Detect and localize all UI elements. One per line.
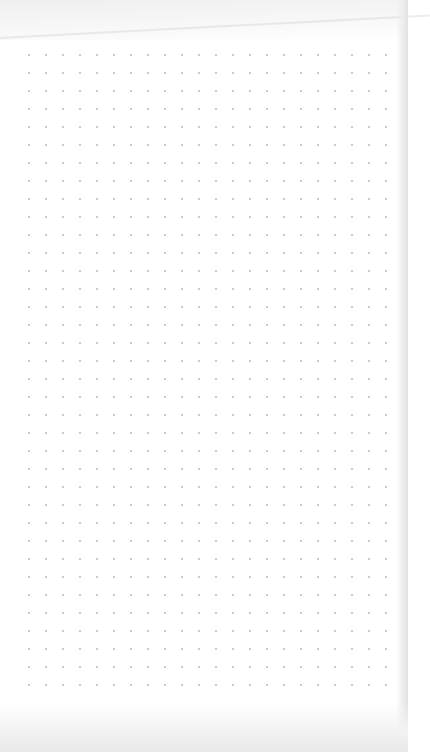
grid-dot [130,54,132,56]
grid-dot [385,216,387,218]
grid-dot [334,234,336,236]
grid-dot [215,216,217,218]
grid-dot [79,234,81,236]
grid-dot [147,90,149,92]
grid-dot [368,630,370,632]
grid-dot [283,306,285,308]
grid-dot [266,198,268,200]
grid-dot [368,54,370,56]
grid-dot [368,414,370,416]
grid-dot [28,72,30,74]
grid-dot [181,72,183,74]
grid-dot [96,486,98,488]
grid-dot [62,684,64,686]
grid-dot [232,108,234,110]
grid-dot [351,540,353,542]
grid-dot [130,558,132,560]
grid-dot [300,414,302,416]
grid-dot [317,126,319,128]
grid-dot [215,594,217,596]
grid-dot [232,162,234,164]
grid-dot [368,486,370,488]
grid-dot [113,594,115,596]
grid-dot [130,126,132,128]
grid-dot [334,126,336,128]
grid-dot [266,594,268,596]
grid-dot [385,54,387,56]
grid-dot [96,306,98,308]
grid-dot [45,432,47,434]
grid-dot [113,234,115,236]
grid-dot [283,630,285,632]
grid-dot [283,468,285,470]
grid-dot [147,198,149,200]
grid-dot [266,306,268,308]
grid-dot [181,198,183,200]
grid-dot [164,522,166,524]
grid-dot [130,306,132,308]
grid-dot [62,126,64,128]
grid-dot [181,144,183,146]
grid-dot [215,360,217,362]
grid-dot [232,432,234,434]
grid-dot [232,144,234,146]
grid-dot [385,252,387,254]
grid-dot [300,180,302,182]
grid-dot [283,576,285,578]
grid-dot [62,216,64,218]
grid-dot [249,684,251,686]
grid-dot [266,270,268,272]
grid-dot [45,540,47,542]
grid-dot [317,648,319,650]
grid-dot [147,432,149,434]
grid-dot [181,126,183,128]
grid-dot [317,216,319,218]
grid-dot [300,612,302,614]
grid-dot [385,558,387,560]
grid-dot [334,144,336,146]
grid-dot [215,162,217,164]
grid-dot [215,342,217,344]
grid-dot [113,360,115,362]
grid-dot [130,234,132,236]
grid-dot [368,126,370,128]
grid-dot [45,378,47,380]
grid-dot [96,468,98,470]
grid-dot [215,306,217,308]
grid-dot [45,54,47,56]
grid-dot [266,162,268,164]
grid-dot [181,288,183,290]
grid-dot [45,414,47,416]
grid-dot [385,108,387,110]
grid-dot [283,198,285,200]
grid-dot [79,324,81,326]
grid-dot [351,252,353,254]
grid-dot [266,108,268,110]
grid-dot [249,360,251,362]
grid-dot [334,450,336,452]
grid-dot [164,54,166,56]
grid-dot [334,486,336,488]
grid-dot [130,522,132,524]
grid-dot [164,378,166,380]
grid-dot [300,468,302,470]
grid-dot [385,234,387,236]
grid-dot [113,306,115,308]
grid-dot [300,522,302,524]
grid-dot [198,486,200,488]
grid-dot [96,108,98,110]
grid-dot [164,360,166,362]
grid-dot [317,540,319,542]
grid-dot [317,504,319,506]
grid-dot [351,288,353,290]
grid-dot [198,180,200,182]
grid-dot [79,450,81,452]
grid-dot [147,594,149,596]
grid-dot [164,414,166,416]
grid-dot [181,558,183,560]
grid-dot [79,486,81,488]
grid-dot [79,198,81,200]
grid-dot [232,558,234,560]
grid-dot [283,324,285,326]
grid-dot [266,540,268,542]
